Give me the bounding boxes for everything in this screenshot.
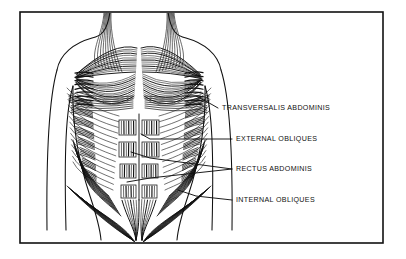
label-text-transversalis-abdominis: TRANSVERSALIS ABDOMINIS	[222, 104, 330, 112]
label-text-internal-obliques: INTERNAL OBLIQUES	[236, 196, 315, 204]
diagram-canvas: TRANSVERSALIS ABDOMINISEXTERNAL OBLIQUES…	[0, 0, 406, 259]
label-text-external-obliques: EXTERNAL OBLIQUES	[236, 135, 317, 143]
anatomy-diagram: TRANSVERSALIS ABDOMINISEXTERNAL OBLIQUES…	[0, 0, 406, 259]
label-text-rectus-abdominis: RECTUS ABDOMINIS	[236, 165, 312, 173]
